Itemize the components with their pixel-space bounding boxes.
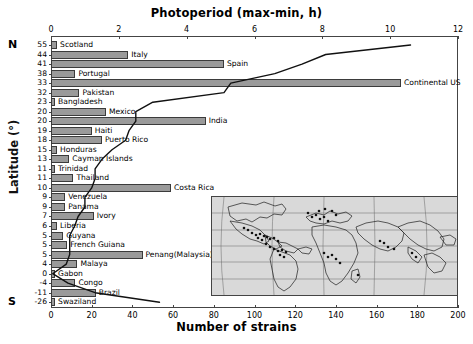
latitude-tick-label: 4 <box>25 259 47 269</box>
top-tick-label: 8 <box>320 25 325 34</box>
top-tick-label: 4 <box>184 25 189 34</box>
top-tick-label: 6 <box>252 25 257 34</box>
latitude-tick-label: 23 <box>25 97 47 107</box>
bottom-tick-label: 100 <box>247 311 262 320</box>
top-tick-label: 2 <box>116 25 121 34</box>
latitude-tick-label: 10 <box>25 183 47 193</box>
bar-label: Swaziland <box>58 296 96 308</box>
latitude-tick-label: 11 <box>25 164 47 174</box>
bottom-tick-label: 140 <box>328 311 343 320</box>
latitude-tick-label: 19 <box>25 126 47 136</box>
latitude-tick-label: 11 <box>25 173 47 183</box>
latitude-tick-label: 9 <box>25 202 47 212</box>
latitude-tick-label: 5 <box>25 231 47 241</box>
latitude-tick-label: 0 <box>25 269 47 279</box>
latitude-tick-label: -26 <box>25 297 47 307</box>
bottom-tick-label: 160 <box>369 311 384 320</box>
latitude-tick-label: 20 <box>25 116 47 126</box>
latitude-tick-label: 5 <box>25 250 47 260</box>
y-axis-title: Latitude (°) <box>7 112 21 202</box>
world-map-inset <box>211 196 458 296</box>
bar <box>51 298 55 306</box>
latitude-tick-label: 44 <box>25 50 47 60</box>
top-tick-label: 10 <box>385 25 395 34</box>
bottom-tick-label: 200 <box>450 311 465 320</box>
latitude-tick-label: 18 <box>25 135 47 145</box>
latitude-tick-label: 5 <box>25 240 47 250</box>
latitude-tick-label: 13 <box>25 154 47 164</box>
latitude-tick-label: 55 <box>25 40 47 50</box>
latitude-tick-label: 38 <box>25 69 47 79</box>
bottom-tick-label: 180 <box>410 311 425 320</box>
bottom-tick-label: 80 <box>209 311 219 320</box>
bottom-tick-label: 120 <box>288 311 303 320</box>
latitude-tick-label: 15 <box>25 145 47 155</box>
figure: Photoperiod (max-min, h) Number of strai… <box>0 0 473 344</box>
latitude-tick-label: 6 <box>25 221 47 231</box>
top-tick-label: 12 <box>453 25 463 34</box>
latitude-tick-label: 7 <box>25 211 47 221</box>
bottom-tick <box>458 305 459 308</box>
hemisphere-south-label: S <box>8 295 16 308</box>
latitude-tick-label: 32 <box>25 88 47 98</box>
latitude-tick-label: 9 <box>25 192 47 202</box>
latitude-tick-label: -4 <box>25 278 47 288</box>
latitude-tick-label: 41 <box>25 59 47 69</box>
bottom-tick-label: 0 <box>48 311 53 320</box>
latitude-tick-label: -11 <box>25 288 47 298</box>
hemisphere-north-label: N <box>8 38 17 51</box>
latitude-tick-label: 33 <box>25 78 47 88</box>
bottom-tick-label: 40 <box>127 311 137 320</box>
top-tick <box>458 36 459 39</box>
bottom-tick-label: 20 <box>87 311 97 320</box>
bottom-axis-title: Number of strains <box>0 320 473 334</box>
latitude-tick-label: 20 <box>25 107 47 117</box>
top-axis-title: Photoperiod (max-min, h) <box>0 6 473 20</box>
top-tick-label: 0 <box>48 25 53 34</box>
bottom-tick-label: 60 <box>168 311 178 320</box>
bar-row: Swaziland <box>51 296 458 309</box>
